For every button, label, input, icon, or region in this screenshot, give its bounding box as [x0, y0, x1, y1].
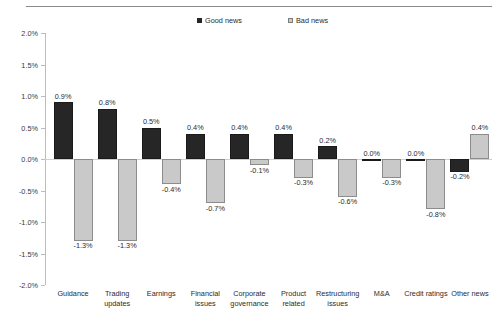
bar-value-label: 0.4%	[462, 124, 497, 131]
bar-good-news[interactable]	[230, 134, 249, 159]
legend-label-good-news: Good news	[205, 17, 242, 24]
y-axis-tick-label: -1.5%	[19, 249, 38, 258]
legend-swatch-bad-news-icon	[288, 18, 293, 23]
bar-good-news[interactable]	[450, 159, 469, 172]
bar-good-news[interactable]	[318, 146, 337, 159]
y-axis-tick-label: 0.0%	[21, 155, 38, 164]
y-axis-tick	[41, 96, 45, 97]
y-axis-tick-label: 1.0%	[21, 92, 38, 101]
bar-group: -0.2%0.4%Other news	[448, 33, 492, 285]
bar-group: 0.0%-0.3%M&A	[360, 33, 404, 285]
y-axis-tick	[41, 65, 45, 66]
bar-group: 0.4%-0.7%Financial issues	[183, 33, 227, 285]
bar-bad-news[interactable]	[382, 159, 401, 178]
bar-bad-news[interactable]	[118, 159, 137, 241]
bar-good-news[interactable]	[274, 134, 293, 159]
bar-bad-news[interactable]	[206, 159, 225, 203]
bar-value-label: 0.0%	[354, 150, 389, 157]
bar-group: 0.2%-0.6%Restructuring issues	[316, 33, 360, 285]
bar-bad-news[interactable]	[74, 159, 93, 241]
bar-value-label: 0.4%	[266, 124, 301, 131]
chart-legend: Good news Bad news	[0, 14, 504, 30]
y-axis-tick-label: 0.5%	[21, 123, 38, 132]
x-axis-category-label: Product related	[272, 289, 316, 308]
y-axis-tick	[41, 128, 45, 129]
y-axis-tick	[41, 33, 45, 34]
x-axis-category-label: Restructuring issues	[316, 289, 360, 308]
bar-value-label: -0.2%	[442, 173, 477, 180]
plot-area: 2.0%1.5%1.0%0.5%0.0%-0.5%-1.0%-1.5%-2.0%…	[45, 33, 492, 285]
bar-value-label: 0.8%	[90, 99, 125, 106]
y-axis-tick-label: -2.0%	[19, 281, 38, 290]
bar-group: 0.4%-0.3%Product related	[272, 33, 316, 285]
bar-good-news[interactable]	[98, 109, 117, 159]
chart-container: Good news Bad news 2.0%1.5%1.0%0.5%0.0%-…	[0, 0, 504, 321]
legend-swatch-good-news-icon	[197, 18, 202, 23]
bar-group: 0.5%-0.4%Earnings	[139, 33, 183, 285]
x-axis-category-label: Earnings	[139, 289, 183, 299]
x-axis-category-label: M&A	[360, 289, 404, 299]
bar-good-news[interactable]	[54, 102, 73, 159]
y-axis-tick	[41, 254, 45, 255]
bar-bad-news[interactable]	[338, 159, 357, 197]
bar-bad-news[interactable]	[426, 159, 445, 209]
x-axis-category-label: Credit ratings	[404, 289, 448, 299]
y-axis-tick	[41, 285, 45, 286]
y-axis-tick	[41, 222, 45, 223]
bar-value-label: 0.4%	[222, 124, 257, 131]
x-axis-category-label: Trading updates	[95, 289, 139, 308]
bar-value-label: 0.9%	[46, 93, 81, 100]
bar-bad-news[interactable]	[294, 159, 313, 178]
legend-item-bad-news: Bad news	[288, 17, 328, 24]
legend-item-good-news: Good news	[197, 17, 242, 24]
y-axis-tick-label: -0.5%	[19, 186, 38, 195]
bar-group: 0.8%-1.3%Trading updates	[95, 33, 139, 285]
y-axis-tick-label: 1.5%	[21, 60, 38, 69]
x-axis-category-label: Corporate governance	[227, 289, 271, 308]
bar-good-news[interactable]	[406, 159, 425, 161]
bar-value-label: 0.5%	[134, 118, 169, 125]
y-axis-tick-label: -1.0%	[19, 218, 38, 227]
bar-value-label: 0.4%	[178, 124, 213, 131]
x-axis-category-label: Guidance	[51, 289, 95, 299]
bar-good-news[interactable]	[186, 134, 205, 159]
bar-value-label: 0.0%	[398, 150, 433, 157]
bar-good-news[interactable]	[362, 159, 381, 161]
top-divider-rule	[26, 6, 492, 7]
bar-bad-news[interactable]	[162, 159, 181, 184]
y-axis-tick-label: 2.0%	[21, 29, 38, 38]
bar-group: 0.0%-0.8%Credit ratings	[404, 33, 448, 285]
y-axis-tick	[41, 191, 45, 192]
bar-bad-news[interactable]	[250, 159, 269, 165]
bar-value-label: 0.2%	[310, 137, 345, 144]
bar-group: 0.9%-1.3%Guidance	[51, 33, 95, 285]
x-axis-category-label: Financial issues	[183, 289, 227, 308]
legend-label-bad-news: Bad news	[296, 17, 328, 24]
bar-good-news[interactable]	[142, 128, 161, 160]
bar-bad-news[interactable]	[470, 134, 489, 159]
x-axis-category-label: Other news	[448, 289, 492, 299]
bar-group: 0.4%-0.1%Corporate governance	[227, 33, 271, 285]
